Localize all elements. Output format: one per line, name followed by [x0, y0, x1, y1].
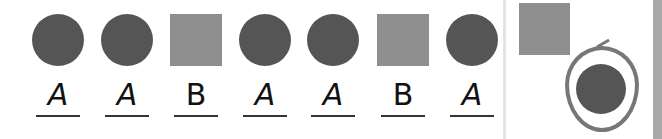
square-shape [170, 14, 222, 66]
pattern-label: A [24, 78, 92, 112]
sequence-item: A [24, 0, 92, 139]
circle-shape [239, 14, 291, 66]
circle-shape [101, 14, 153, 66]
sequence-item: B [162, 0, 230, 139]
circle-shape [446, 14, 498, 66]
answer-underline [243, 115, 287, 117]
option-circle-selected[interactable] [576, 64, 626, 114]
answer-underline [105, 115, 149, 117]
pattern-label: B [162, 78, 230, 112]
circle-shape [32, 14, 84, 66]
pattern-label: A [299, 78, 367, 112]
sequence-item: A [299, 0, 367, 139]
sequence-item: A [231, 0, 299, 139]
answer-underline [381, 115, 425, 117]
page-edge-strip [653, 0, 662, 139]
circle-shape [307, 14, 359, 66]
square-shape [377, 14, 429, 66]
answer-underline [36, 115, 80, 117]
divider [503, 0, 506, 139]
answer-underline [174, 115, 218, 117]
option-square[interactable] [519, 3, 570, 55]
answer-underline [450, 115, 494, 117]
pattern-label: A [438, 78, 506, 112]
pattern-label: A [231, 78, 299, 112]
pattern-label: B [369, 78, 437, 112]
sequence-item: A [438, 0, 506, 139]
sequence-item: B [369, 0, 437, 139]
answer-underline [311, 115, 355, 117]
pattern-label: A [93, 78, 161, 112]
sequence-item: A [93, 0, 161, 139]
